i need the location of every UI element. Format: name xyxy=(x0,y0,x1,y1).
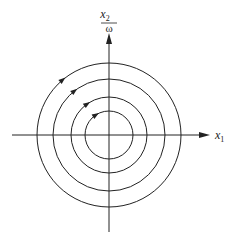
phase-portrait-diagram: x1 x2 ω xyxy=(0,0,228,234)
x1-axis-label: x1 xyxy=(214,128,224,144)
x2-axis-arrowhead-icon xyxy=(106,33,112,44)
svg-text:ω: ω xyxy=(105,22,112,34)
direction-arrow-icon xyxy=(92,113,99,119)
x2-over-omega-label: x2 ω xyxy=(99,7,117,34)
svg-text:x2: x2 xyxy=(99,7,109,23)
x1-axis-arrowhead-icon xyxy=(199,132,210,138)
